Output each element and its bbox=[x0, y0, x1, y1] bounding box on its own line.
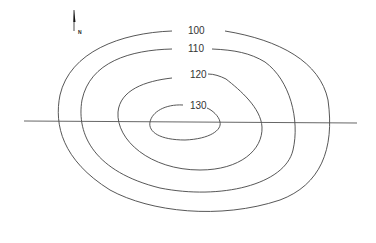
contour-110 bbox=[81, 49, 295, 192]
contour-label-130: 130 bbox=[190, 100, 207, 111]
contour-map: N 100 110 120 130 bbox=[0, 0, 376, 243]
contour-label-110: 110 bbox=[188, 43, 204, 54]
contour-label-120: 120 bbox=[190, 69, 207, 80]
north-arrow-icon: N bbox=[73, 10, 82, 35]
cross-section-line bbox=[24, 121, 357, 123]
contour-label-100: 100 bbox=[188, 25, 205, 36]
north-label: N bbox=[78, 29, 82, 35]
